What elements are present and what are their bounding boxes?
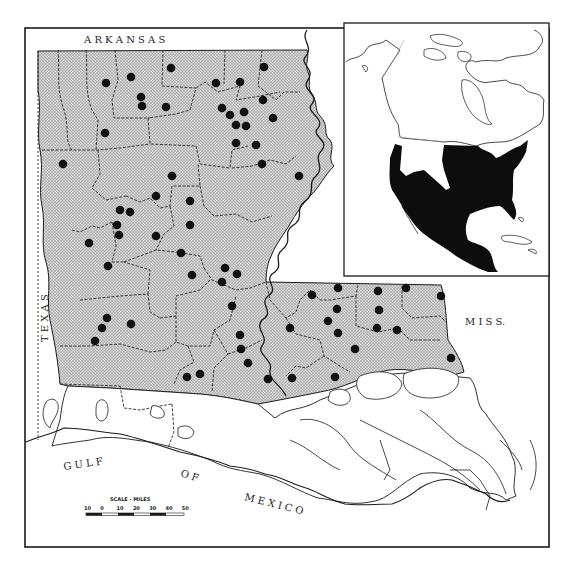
record-dot [237,345,246,354]
record-dot [269,114,278,123]
record-dot [447,354,456,363]
record-dot [127,320,136,329]
record-dot [252,141,261,150]
record-dot [351,345,360,354]
record-dot [113,221,122,230]
record-dot [127,73,136,82]
record-dot [228,302,237,311]
record-dot [221,264,230,273]
record-dot [104,262,113,271]
label-texas: T E X A S [39,294,50,342]
record-dot [168,172,177,181]
scale-tick-label: 40 [166,505,173,511]
record-dot [186,197,195,206]
record-dot [177,249,186,258]
record-dot [236,78,245,87]
scale-tick-label: 10 [84,505,91,511]
record-dot [295,172,304,181]
record-dot [167,64,176,73]
scale-tick-label: 0 [100,505,104,511]
record-dot [183,373,192,382]
record-dot [98,324,107,333]
record-dot [375,306,384,315]
label-arkansas: A R K A N S A S [83,34,166,45]
record-dot [308,291,317,300]
record-dot [233,270,242,279]
record-dot [226,111,235,120]
record-dot [260,63,269,72]
scale-tick-label: 10 [117,505,124,511]
record-dot [152,192,161,201]
record-dot [288,374,297,383]
record-dot [218,104,227,113]
record-dot [334,284,343,293]
record-dot [59,160,68,169]
record-dot [232,121,241,130]
record-dot [286,324,295,333]
record-dot [138,102,147,111]
record-dot [437,292,446,301]
record-dot [186,221,195,230]
record-dot [333,305,342,314]
scale-title: SCALE - MILES [110,496,151,502]
record-dot [373,324,382,333]
record-dot [236,331,245,340]
record-dot [259,96,268,105]
scale-tick-label: 30 [149,505,156,511]
record-dot [240,108,249,117]
scale-tick-label: 50 [182,505,189,511]
louisiana-range-map: A R K A N S A S T E X A S M I S S. G U L… [0,0,567,568]
record-dot [162,103,171,112]
record-dot [212,79,221,88]
record-dot [115,231,124,240]
record-dot [102,79,111,88]
record-dot [244,359,253,368]
record-dot [374,287,383,296]
record-dot [242,122,251,131]
record-dot [152,232,161,241]
record-dot [196,370,205,379]
record-dot [334,329,343,338]
record-dot [103,314,112,323]
record-dot [137,93,146,102]
north-america-inset [344,23,549,276]
record-dot [393,326,402,335]
record-dot [101,129,110,138]
scale-tick-label: 20 [133,505,140,511]
record-dot [91,337,100,346]
record-dot [324,317,333,326]
record-dot [232,139,241,148]
record-dot [331,373,340,382]
record-dot [126,208,135,217]
record-dot [85,239,94,248]
record-dot [402,284,411,293]
record-dot [218,278,227,287]
label-miss: M I S S. [465,316,505,327]
record-dot [258,160,267,169]
record-dot [116,206,125,215]
record-dot [264,375,273,384]
record-dot [188,271,197,280]
